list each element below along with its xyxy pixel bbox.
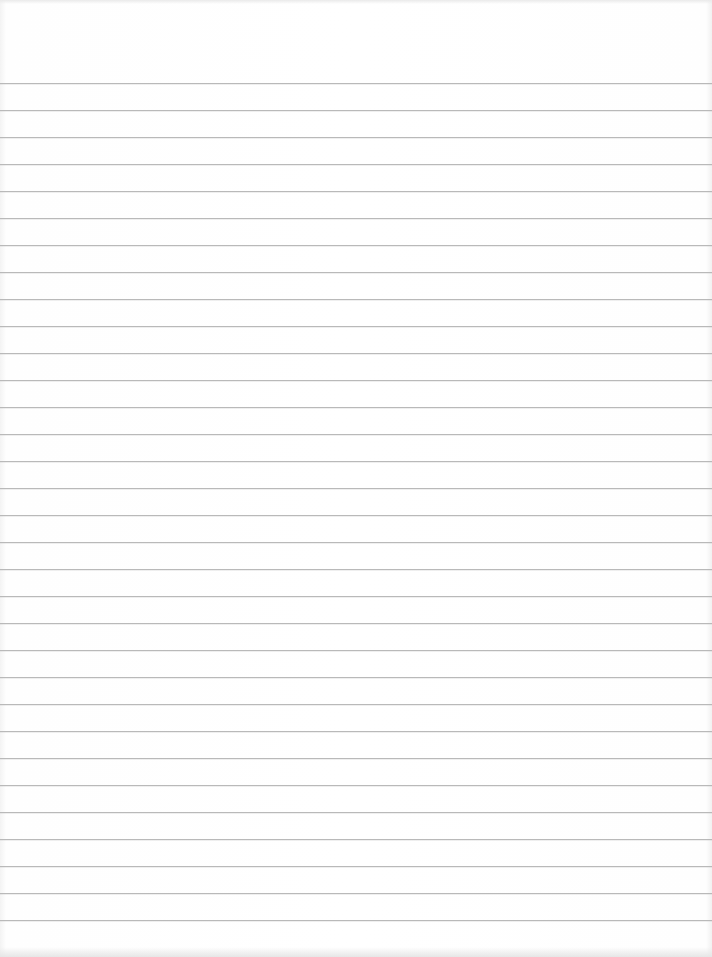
ruled-line bbox=[0, 893, 712, 894]
ruled-line bbox=[0, 191, 712, 192]
ruled-line bbox=[0, 623, 712, 624]
ruled-line bbox=[0, 758, 712, 759]
ruled-line bbox=[0, 137, 712, 138]
ruled-line bbox=[0, 434, 712, 435]
ruled-line bbox=[0, 866, 712, 867]
ruled-line bbox=[0, 596, 712, 597]
ruled-line bbox=[0, 83, 712, 84]
ruled-line bbox=[0, 704, 712, 705]
lined-paper bbox=[0, 0, 712, 957]
ruled-line bbox=[0, 677, 712, 678]
ruled-line bbox=[0, 542, 712, 543]
ruled-line bbox=[0, 839, 712, 840]
ruled-line bbox=[0, 272, 712, 273]
ruled-line bbox=[0, 164, 712, 165]
ruled-line bbox=[0, 380, 712, 381]
ruled-line bbox=[0, 785, 712, 786]
ruled-line bbox=[0, 461, 712, 462]
ruled-line bbox=[0, 650, 712, 651]
ruled-line bbox=[0, 812, 712, 813]
ruled-line bbox=[0, 407, 712, 408]
ruled-line bbox=[0, 218, 712, 219]
ruled-line bbox=[0, 569, 712, 570]
ruled-line bbox=[0, 515, 712, 516]
ruled-line bbox=[0, 245, 712, 246]
ruled-line bbox=[0, 488, 712, 489]
ruled-line bbox=[0, 299, 712, 300]
ruled-line bbox=[0, 920, 712, 921]
ruled-line bbox=[0, 326, 712, 327]
ruled-line bbox=[0, 110, 712, 111]
ruled-line bbox=[0, 353, 712, 354]
ruled-line bbox=[0, 731, 712, 732]
top-edge-shadow bbox=[0, 0, 712, 4]
bottom-edge-shadow bbox=[0, 947, 712, 957]
